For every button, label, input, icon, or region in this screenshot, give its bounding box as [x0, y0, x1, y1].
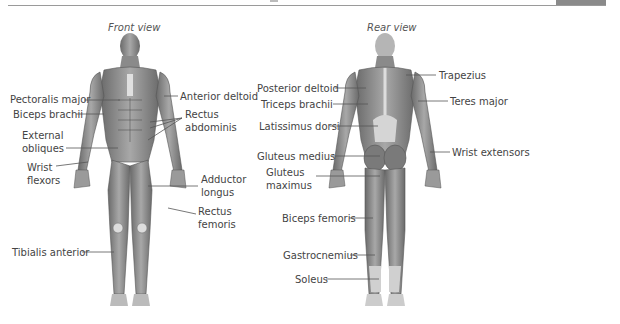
label-rectus-abdominis-line2: abdominis — [185, 121, 237, 134]
label-teres-major: Teres major — [450, 95, 508, 108]
label-external-obliques-line1: External — [22, 129, 64, 142]
label-pectoralis-major: Pectoralis major — [10, 93, 90, 106]
label-wrist-flexors-line1: Wrist — [27, 161, 52, 174]
label-anterior-deltoid: Anterior deltoid — [180, 90, 258, 103]
label-wrist-extensors: Wrist extensors — [452, 146, 530, 159]
label-posterior-deltoid: Posterior deltoid — [257, 82, 339, 95]
label-adductor-longus-line2: longus — [201, 186, 234, 199]
label-wrist-flexors-line2: flexors — [27, 174, 60, 187]
label-trapezius: Trapezius — [439, 69, 486, 82]
label-adductor-longus-line1: Adductor — [201, 173, 246, 186]
label-rectus-abdominis-line1: Rectus — [185, 108, 219, 121]
label-gluteus-medius: Gluteus medius — [257, 150, 335, 163]
label-rectus-femoris-line1: Rectus — [198, 205, 232, 218]
label-triceps-brachii: Triceps brachii — [261, 98, 333, 111]
label-gluteus-maximus-line1: Gluteus — [266, 166, 305, 179]
label-external-obliques-line2: obliques — [22, 142, 64, 155]
label-latissimus-dorsi: Latissimus dorsi — [259, 120, 340, 133]
label-tibialis-anterior: Tibialis anterior — [12, 246, 89, 259]
label-biceps-brachii: Biceps brachii — [13, 108, 83, 121]
label-gastrocnemius: Gastrocnemius — [283, 249, 358, 262]
label-biceps-femoris: Biceps femoris — [282, 212, 356, 225]
label-soleus: Soleus — [295, 273, 328, 286]
label-rectus-femoris-line2: femoris — [198, 218, 236, 231]
label-gluteus-maximus-line2: maximus — [266, 179, 312, 192]
